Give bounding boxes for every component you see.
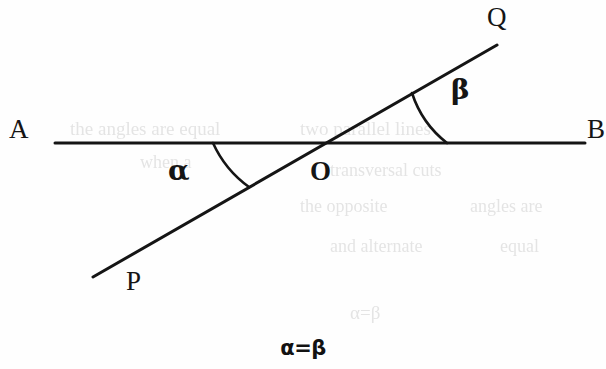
angle-arc-beta bbox=[412, 93, 447, 143]
line-PQ-transversal bbox=[93, 45, 497, 277]
figure-caption: α=β bbox=[0, 336, 606, 360]
geometry-figure: the angles are equaltwo parallel lineswh… bbox=[0, 0, 606, 369]
label-point-O: O bbox=[310, 158, 331, 185]
label-point-B: B bbox=[587, 116, 605, 143]
label-angle-beta: β bbox=[451, 76, 470, 104]
diagram-canvas bbox=[0, 0, 606, 369]
angle-arc-alpha bbox=[213, 143, 249, 187]
label-point-A: A bbox=[9, 116, 29, 143]
label-point-Q: Q bbox=[487, 4, 507, 31]
label-angle-alpha: α bbox=[168, 157, 190, 185]
label-point-P: P bbox=[126, 268, 141, 295]
